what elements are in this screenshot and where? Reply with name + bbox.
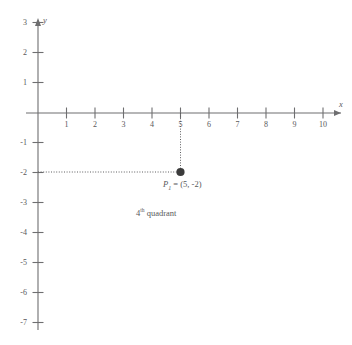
y-tick-label-minus-2: -2 bbox=[12, 169, 27, 177]
x-tick-label-8: 8 bbox=[260, 121, 272, 129]
x-axis-arrowhead bbox=[334, 110, 341, 116]
x-tick-label-2: 2 bbox=[89, 121, 101, 129]
cartesian-plane bbox=[0, 0, 352, 345]
data-point-p1 bbox=[176, 168, 184, 176]
quadrant-text: quadrant bbox=[145, 208, 177, 218]
quadrant-annotation: 4th quadrant bbox=[136, 209, 176, 218]
x-tick-label-10: 10 bbox=[317, 121, 329, 129]
y-tick-label-minus-6: -6 bbox=[12, 289, 27, 297]
x-tick-label-4: 4 bbox=[146, 121, 158, 129]
point-label-p1: P1 = (5, -2) bbox=[163, 180, 202, 191]
x-tick-label-7: 7 bbox=[232, 121, 244, 129]
point-label-coords: = (5, -2) bbox=[171, 179, 201, 189]
y-axis-label: y bbox=[43, 16, 47, 25]
x-tick-label-9: 9 bbox=[289, 121, 301, 129]
x-tick-label-5: 5 bbox=[175, 121, 187, 129]
x-tick-label-6: 6 bbox=[203, 121, 215, 129]
x-tick-label-3: 3 bbox=[118, 121, 130, 129]
y-tick-label-minus-7: -7 bbox=[12, 319, 27, 327]
y-tick-label-1: 1 bbox=[12, 79, 27, 87]
y-tick-label-3: 3 bbox=[12, 19, 27, 27]
y-tick-label-minus-5: -5 bbox=[12, 259, 27, 267]
x-tick-label-1: 1 bbox=[61, 121, 73, 129]
x-axis-label: x bbox=[339, 100, 343, 109]
y-tick-label-minus-1: -1 bbox=[12, 139, 27, 147]
y-tick-label-minus-3: -3 bbox=[12, 199, 27, 207]
y-tick-label-2: 2 bbox=[12, 49, 27, 57]
y-tick-label-minus-4: -4 bbox=[12, 229, 27, 237]
